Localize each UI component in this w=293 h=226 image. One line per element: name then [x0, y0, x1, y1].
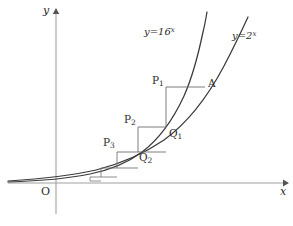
point-label-q2-sub: 2 [148, 156, 153, 165]
point-label-p1: P1 [152, 75, 164, 87]
point-label-p3-sub: 3 [110, 141, 115, 150]
point-label-p1-sub: 1 [159, 79, 164, 88]
point-label-q2: Q2 [139, 152, 152, 164]
point-label-a-base: A [208, 77, 216, 89]
point-label-q1: Q1 [169, 128, 182, 140]
x-axis-label: x [280, 186, 286, 197]
y-axis-label: y [43, 5, 49, 16]
point-label-q2-base: Q [139, 151, 148, 163]
curve-2x-exponent: x [252, 30, 256, 38]
square-2 [117, 127, 166, 152]
point-label-q1-base: Q [169, 127, 178, 139]
curve-16x-path [8, 12, 207, 182]
point-label-a: A [208, 78, 216, 90]
point-label-p3: P3 [103, 137, 115, 149]
square-1 [138, 87, 205, 127]
curve-2x-path [8, 17, 248, 181]
point-label-q1-sub: 1 [178, 132, 183, 141]
curve-2x-label: y=2x [232, 31, 256, 41]
square-5 [90, 177, 101, 181]
math-figure: y x O y=16x y=2x P1 A Q1 P2 Q2 P3 [0, 0, 293, 226]
curve-2x-label-text: y=2 [232, 30, 252, 41]
curve-16x-exponent: x [171, 26, 175, 34]
x-axis [8, 180, 289, 187]
origin-label: O [41, 186, 50, 197]
curve-16x-label-text: y=16 [144, 26, 171, 37]
point-label-p2: P2 [124, 114, 136, 126]
point-label-p2-sub: 2 [131, 118, 136, 127]
curve-16x-label: y=16x [144, 27, 175, 37]
